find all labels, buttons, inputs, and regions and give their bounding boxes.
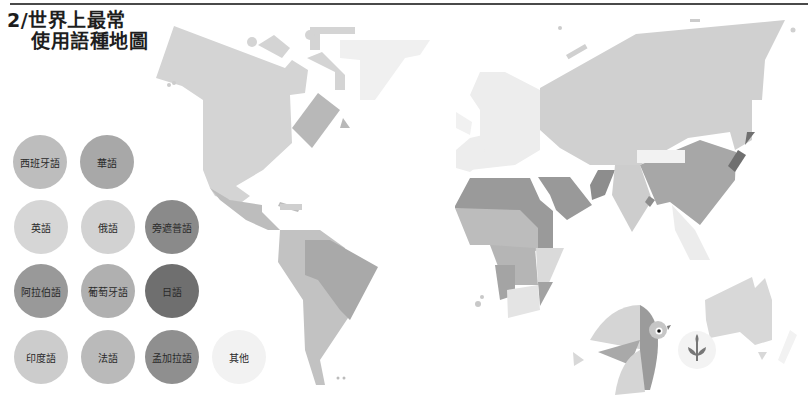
region-greenland [340,40,430,100]
legend-item-english: 英語 [14,200,68,254]
page-title: 2/世界上最常 使用語種地圖 [7,10,148,52]
legend-label: 其他 [229,350,249,365]
decor-dot [558,26,562,30]
legend-item-russian: 俄語 [81,200,135,254]
region-north-america-island-4 [247,37,257,47]
legend-item-mandarin: 華語 [80,135,134,189]
region-quebec-tip [340,118,350,128]
decor-dot [172,81,176,85]
bird-beak [667,325,671,330]
region-north-america-islands-1 [258,35,290,58]
decor-bar [690,19,700,22]
region-russia [540,20,785,165]
decor-dot [343,377,346,380]
decor-bar [280,204,302,210]
region-south-africa [507,285,540,318]
bird-tail-tip [573,352,584,366]
legend-item-arabic: 阿拉伯語 [14,264,68,318]
legend-item-punjabi: 旁遮普語 [145,200,199,254]
legend-item-french: 法語 [81,330,135,384]
region-australia [705,277,772,345]
legend-item-portuguese: 葡萄牙語 [81,264,135,318]
legend-item-hindi: 印度語 [14,330,68,384]
legend-label: 法語 [98,350,118,365]
decor-bar [566,44,588,59]
legend-item-spanish: 西班牙語 [13,135,67,189]
region-north-america-island-5 [305,30,315,40]
decor-dot [337,377,340,380]
decor-dot [791,28,796,33]
decor-dot [480,295,484,299]
bird-illustration [573,305,671,395]
sprout-icon [678,331,716,369]
legend-label: 阿拉伯語 [21,284,61,299]
legend-label: 俄語 [98,220,118,235]
legend-item-japanese: 日語 [145,264,199,318]
legend-label: 孟加拉語 [152,350,192,365]
region-mongolia [637,150,685,163]
region-pakistan [590,170,615,200]
title-line-1: 2/世界上最常 [7,10,148,31]
legend-label: 印度語 [26,350,56,365]
decor-dot [167,83,171,87]
legend-item-other: 其他 [212,330,266,384]
legend-label: 旁遮普語 [152,220,192,235]
decor-dot [475,301,481,307]
region-new-zealand [778,330,797,364]
region-north-america-islands-3 [307,52,345,90]
region-east-africa [536,248,564,285]
title-line-2: 使用語種地圖 [7,31,148,52]
bird-pupil [657,329,661,333]
legend-label: 英語 [31,220,51,235]
legend-label: 西班牙語 [20,155,60,170]
legend-label: 葡萄牙語 [88,284,128,299]
legend-item-bengali: 孟加拉語 [145,330,199,384]
region-tasmania [758,352,767,360]
legend-label: 日語 [162,284,182,299]
region-quebec [292,93,340,148]
region-mozambique [538,282,553,306]
legend-label: 華語 [97,155,117,170]
region-uk [456,112,472,135]
